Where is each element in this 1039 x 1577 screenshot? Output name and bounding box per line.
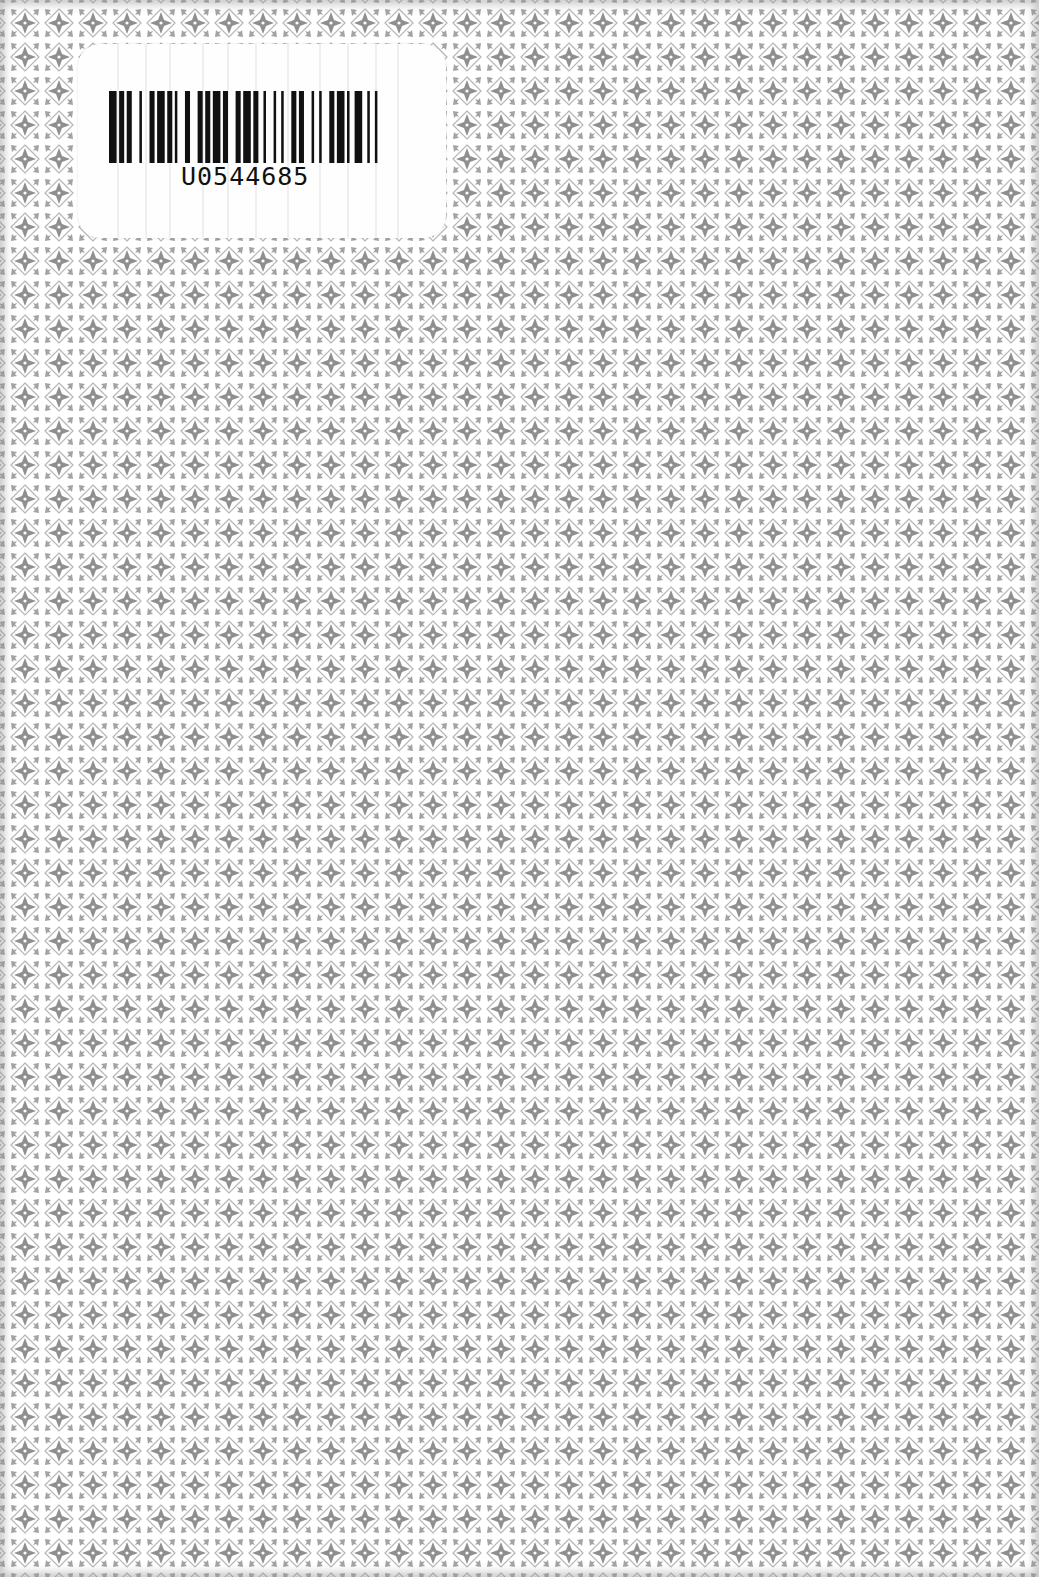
barcode-bars bbox=[109, 91, 389, 163]
barcode-sticker: U0544685 bbox=[78, 44, 446, 238]
barcode-number: U0544685 bbox=[181, 162, 309, 191]
